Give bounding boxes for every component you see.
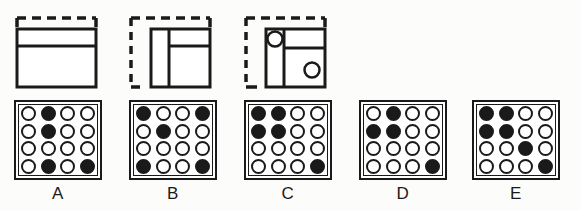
empty-hole [405, 106, 420, 121]
empty-hole [21, 124, 36, 139]
empty-hole [156, 106, 171, 121]
empty-hole [60, 124, 75, 139]
fold-step-3 [241, 6, 351, 98]
empty-hole [518, 106, 533, 121]
punched-hole [41, 124, 56, 139]
punched-hole [499, 124, 514, 139]
empty-hole [425, 124, 440, 139]
empty-hole [60, 106, 75, 121]
empty-hole [195, 124, 210, 139]
empty-hole [251, 141, 266, 156]
punched-hole [366, 124, 381, 139]
option-e-grid[interactable] [472, 100, 560, 180]
empty-hole [366, 159, 381, 174]
empty-hole [290, 141, 305, 156]
empty-hole [405, 124, 420, 139]
punched-hole [538, 159, 553, 174]
empty-hole [538, 106, 553, 121]
option-e-cells [476, 104, 556, 176]
option-c-label: C [244, 184, 332, 204]
empty-hole [60, 159, 75, 174]
empty-hole [366, 106, 381, 121]
empty-hole [21, 159, 36, 174]
empty-hole [21, 141, 36, 156]
option-a-cells [18, 104, 98, 176]
punch-hole-lower-right [305, 63, 320, 78]
empty-hole [479, 141, 494, 156]
empty-hole [175, 106, 190, 121]
punched-hole [271, 106, 286, 121]
punched-hole [41, 106, 56, 121]
empty-hole [175, 159, 190, 174]
option-b-cells [133, 104, 213, 176]
empty-hole [21, 106, 36, 121]
empty-hole [499, 159, 514, 174]
punched-hole [41, 159, 56, 174]
empty-hole [386, 159, 401, 174]
empty-hole [479, 159, 494, 174]
empty-hole [156, 141, 171, 156]
punched-hole [251, 124, 266, 139]
empty-hole [386, 141, 401, 156]
empty-hole [310, 124, 325, 139]
empty-hole [310, 106, 325, 121]
empty-hole [518, 124, 533, 139]
option-e-label: E [472, 184, 560, 204]
empty-hole [518, 159, 533, 174]
punch-hole-upper-left [268, 32, 283, 47]
empty-hole [195, 141, 210, 156]
empty-hole [538, 141, 553, 156]
empty-hole [425, 106, 440, 121]
punched-hole [136, 159, 151, 174]
fold-step-2-drawing [126, 6, 236, 98]
answer-option-d[interactable]: D [359, 100, 459, 204]
answer-option-e[interactable]: E [472, 100, 572, 204]
answer-option-c[interactable]: C [244, 100, 344, 204]
option-a-grid[interactable] [14, 100, 102, 180]
empty-hole [80, 141, 95, 156]
empty-hole [80, 124, 95, 139]
empty-hole [366, 141, 381, 156]
punched-hole [386, 106, 401, 121]
fold-step-3-drawing [241, 6, 351, 98]
option-d-grid[interactable] [359, 100, 447, 180]
option-b-label: B [129, 184, 217, 204]
fold-step-2 [126, 6, 236, 98]
empty-hole [175, 141, 190, 156]
punched-hole [518, 141, 533, 156]
sheet-outline [151, 29, 210, 87]
punched-hole [386, 124, 401, 139]
empty-hole [156, 159, 171, 174]
punched-hole [136, 106, 151, 121]
empty-hole [41, 141, 56, 156]
punched-hole [425, 159, 440, 174]
fold-step-1-drawing [12, 6, 122, 98]
empty-hole [499, 141, 514, 156]
punched-hole [195, 106, 210, 121]
punched-hole [156, 124, 171, 139]
empty-hole [136, 124, 151, 139]
empty-hole [405, 141, 420, 156]
empty-hole [538, 124, 553, 139]
punched-hole [479, 124, 494, 139]
empty-hole [405, 159, 420, 174]
empty-hole [60, 141, 75, 156]
option-b-grid[interactable] [129, 100, 217, 180]
empty-hole [310, 141, 325, 156]
punched-hole [310, 159, 325, 174]
empty-hole [80, 106, 95, 121]
option-d-label: D [359, 184, 447, 204]
figure-canvas: A B C D E [0, 0, 581, 210]
punched-hole [195, 159, 210, 174]
answer-option-a[interactable]: A [14, 100, 114, 204]
empty-hole [175, 124, 190, 139]
empty-hole [271, 141, 286, 156]
empty-hole [271, 159, 286, 174]
empty-hole [251, 159, 266, 174]
punched-hole [80, 159, 95, 174]
empty-hole [136, 141, 151, 156]
option-a-label: A [14, 184, 102, 204]
option-c-grid[interactable] [244, 100, 332, 180]
answer-option-b[interactable]: B [129, 100, 229, 204]
empty-hole [290, 124, 305, 139]
